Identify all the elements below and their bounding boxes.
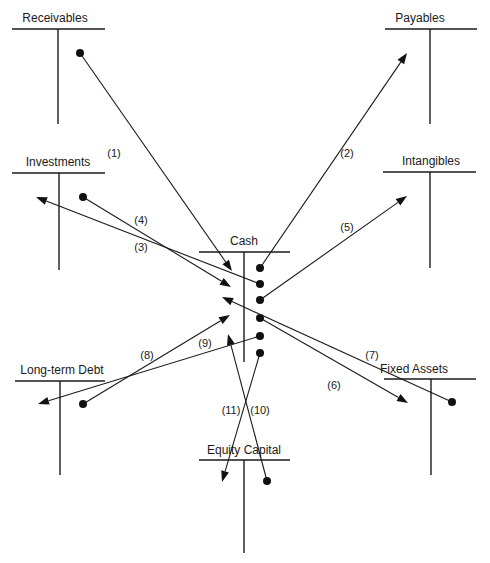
cash-flow-t-account-diagram: ReceivablesPayablesInvestmentsIntangible… xyxy=(0,0,490,563)
arrowhead-icon xyxy=(219,315,231,324)
t-account-receivables: Receivables xyxy=(12,11,105,124)
source-dot-icon xyxy=(448,398,456,406)
arrowhead-icon xyxy=(222,260,232,271)
account-label: Payables xyxy=(395,11,444,25)
arrowhead-icon xyxy=(222,297,234,305)
flow-5: (5) xyxy=(256,196,407,304)
arrowhead-icon xyxy=(398,53,408,64)
flow-number-label: (6) xyxy=(327,379,340,391)
t-account-intangibles: Intangibles xyxy=(383,154,476,268)
flow-number-label: (8) xyxy=(140,349,153,361)
source-dot-icon xyxy=(79,193,87,201)
flow-number-label: (10) xyxy=(250,404,270,416)
flow-8: (8) xyxy=(79,315,230,408)
t-account-payables: Payables xyxy=(385,11,477,124)
arrowhead-icon xyxy=(396,196,407,206)
t-account-equity-capital: Equity Capital xyxy=(199,443,290,553)
account-label: Cash xyxy=(230,234,258,248)
account-label: Long-term Debt xyxy=(20,363,104,377)
flow-line xyxy=(46,201,260,284)
flow-4: (4) xyxy=(79,193,231,287)
source-dot-icon xyxy=(256,264,264,272)
t-account-cash: Cash xyxy=(199,234,290,362)
t-accounts: ReceivablesPayablesInvestmentsIntangible… xyxy=(12,11,477,553)
source-dot-icon xyxy=(256,349,264,357)
arrowhead-icon xyxy=(397,394,409,403)
flow-number-label: (1) xyxy=(107,147,120,159)
flow-arrows: (1)(2)(3)(4)(5)(6)(7)(8)(9)(10)(11) xyxy=(36,49,456,485)
account-label: Receivables xyxy=(22,11,87,25)
source-dot-icon xyxy=(256,280,264,288)
flow-number-label: (4) xyxy=(134,214,147,226)
flow-line xyxy=(232,302,452,402)
source-dot-icon xyxy=(79,400,87,408)
t-account-long-term-debt: Long-term Debt xyxy=(15,363,105,475)
flow-2: (2) xyxy=(256,53,407,272)
account-label: Equity Capital xyxy=(207,443,281,457)
flow-line xyxy=(260,202,398,300)
arrowhead-icon xyxy=(38,397,50,405)
flow-number-label: (2) xyxy=(340,147,353,159)
flow-number-label: (3) xyxy=(134,241,147,253)
source-dot-icon xyxy=(256,296,264,304)
source-dot-icon xyxy=(76,49,84,57)
t-account-investments: Investments xyxy=(12,155,105,270)
flow-line xyxy=(260,62,401,268)
account-label: Investments xyxy=(26,155,91,169)
flow-line xyxy=(83,197,222,281)
source-dot-icon xyxy=(263,477,271,485)
flow-number-label: (9) xyxy=(198,337,211,349)
arrowhead-icon xyxy=(221,470,229,482)
t-account-fixed-assets: Fixed Assets xyxy=(380,362,476,475)
flow-1: (1) xyxy=(76,49,232,271)
flow-number-label: (7) xyxy=(365,349,378,361)
flow-number-label: (5) xyxy=(340,221,353,233)
flow-line xyxy=(80,53,226,262)
source-dot-icon xyxy=(256,332,264,340)
account-label: Intangibles xyxy=(402,154,460,168)
flow-6: (6) xyxy=(256,314,408,403)
flow-number-label: (11) xyxy=(222,404,241,416)
arrowhead-icon xyxy=(36,197,48,205)
arrowhead-icon xyxy=(220,278,232,287)
